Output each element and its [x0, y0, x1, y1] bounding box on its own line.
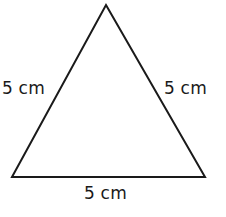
right-side-length-label: 5 cm — [164, 79, 207, 98]
triangle-figure: 5 cm 5 cm 5 cm — [0, 0, 226, 217]
base-side-length-label: 5 cm — [84, 184, 127, 203]
clipped-caption-text — [0, 209, 226, 217]
left-side-length-label: 5 cm — [2, 79, 45, 98]
